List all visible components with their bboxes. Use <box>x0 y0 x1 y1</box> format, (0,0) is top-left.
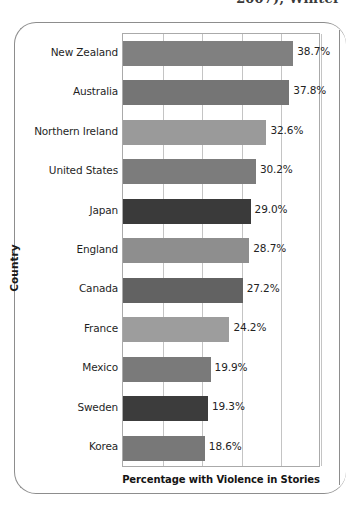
bar-value-label: 37.8% <box>293 84 326 96</box>
bar-row: 27.2% <box>123 271 319 310</box>
bar[interactable] <box>123 436 205 461</box>
category-label-united-states: United States <box>8 164 118 176</box>
gridline <box>321 34 322 466</box>
bar-value-label: 27.2% <box>247 282 280 294</box>
category-label-mexico: Mexico <box>8 361 118 373</box>
bar-value-label: 18.6% <box>209 440 242 452</box>
bar[interactable] <box>123 278 243 303</box>
bar[interactable] <box>123 41 293 66</box>
bar-value-label: 38.7% <box>297 45 330 57</box>
violence-in-stories-bar-chart: Country New ZealandAustraliaNorthern Ire… <box>0 0 352 512</box>
bar[interactable] <box>123 317 229 342</box>
plot-area: 38.7%37.8%32.6%30.2%29.0%28.7%27.2%24.2%… <box>122 33 320 467</box>
bar[interactable] <box>123 199 251 224</box>
bar-row: 38.7% <box>123 34 319 73</box>
bar-row: 29.0% <box>123 192 319 231</box>
bar[interactable] <box>123 238 249 263</box>
bar-value-label: 29.0% <box>255 203 288 215</box>
category-label-korea: Korea <box>8 440 118 452</box>
bar-value-label: 32.6% <box>270 124 303 136</box>
bar[interactable] <box>123 120 266 145</box>
bar-row: 24.2% <box>123 310 319 349</box>
category-label-canada: Canada <box>8 282 118 294</box>
bar[interactable] <box>123 357 211 382</box>
category-label-northern-ireland: Northern Ireland <box>8 125 118 137</box>
x-axis-title: Percentage with Violence in Stories <box>122 474 320 485</box>
category-label-france: France <box>8 322 118 334</box>
bar-value-label: 19.3% <box>212 400 245 412</box>
bar-value-label: 19.9% <box>215 361 248 373</box>
category-label-new-zealand: New Zealand <box>8 46 118 58</box>
bar[interactable] <box>123 159 256 184</box>
bar-row: 19.3% <box>123 389 319 428</box>
bar-row: 19.9% <box>123 350 319 389</box>
bar-row: 18.6% <box>123 429 319 468</box>
bar[interactable] <box>123 80 289 105</box>
bar-value-label: 24.2% <box>233 321 266 333</box>
bar[interactable] <box>123 396 208 421</box>
category-label-australia: Australia <box>8 85 118 97</box>
bar-row: 37.8% <box>123 73 319 112</box>
category-label-japan: Japan <box>8 204 118 216</box>
category-axis-labels: New ZealandAustraliaNorthern IrelandUnit… <box>4 33 118 467</box>
bar-row: 28.7% <box>123 231 319 270</box>
bar-value-label: 28.7% <box>253 242 286 254</box>
category-label-sweden: Sweden <box>8 401 118 413</box>
bar-rows: 38.7%37.8%32.6%30.2%29.0%28.7%27.2%24.2%… <box>123 34 319 466</box>
bar-row: 32.6% <box>123 113 319 152</box>
bar-value-label: 30.2% <box>260 163 293 175</box>
bar-row: 30.2% <box>123 152 319 191</box>
category-label-england: England <box>8 243 118 255</box>
